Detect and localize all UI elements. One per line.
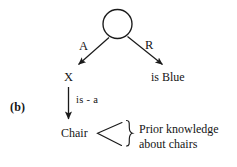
annotation-line-2: about chairs [139, 137, 219, 152]
annotation-fan-icon [98, 123, 123, 146]
root-circle-node [103, 10, 132, 39]
figure-panel-b: (b) A R is - a X is Blue Chair Prior kno… [0, 0, 237, 167]
node-label-chair: Chair [61, 127, 88, 139]
edge-label-a: A [79, 40, 88, 53]
panel-label: (b) [10, 101, 25, 113]
annotation-line-1: Prior knowledge [139, 122, 219, 137]
annotation-brace-icon [127, 121, 133, 147]
node-label-is-blue: is Blue [151, 71, 185, 83]
edge-label-r: R [145, 39, 153, 52]
edge-label-is-a: is - a [76, 95, 98, 106]
node-label-x: X [64, 71, 73, 84]
prior-knowledge-annotation-text: Prior knowledge about chairs [139, 122, 219, 151]
